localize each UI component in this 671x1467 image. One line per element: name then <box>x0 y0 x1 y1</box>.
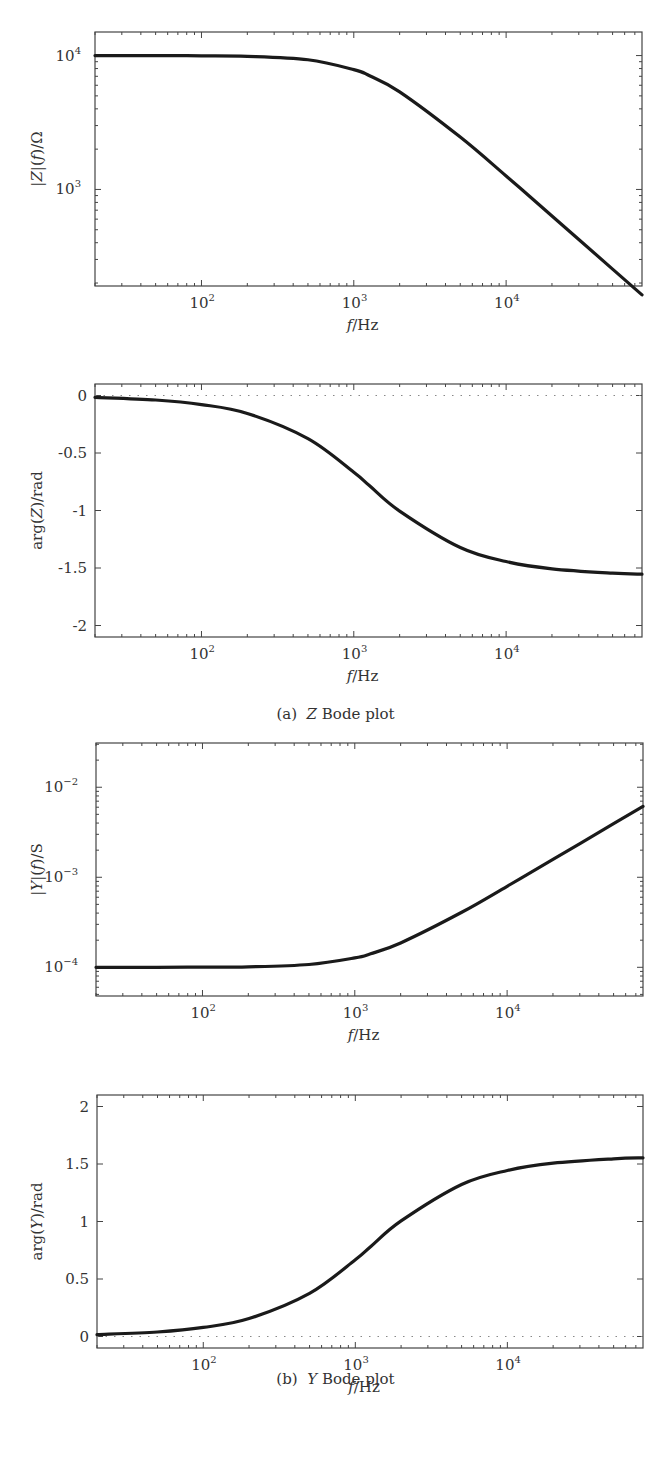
caption-symbol: Z <box>307 705 317 723</box>
y-axis-label: arg(Z)/rad <box>28 471 46 550</box>
x-tick-label: 102 <box>189 292 214 312</box>
y-tick-label: 1.5 <box>65 1155 89 1173</box>
series-line-y-phase <box>97 1158 643 1335</box>
x-tick-label: 104 <box>494 643 519 663</box>
plot-frame <box>95 32 642 286</box>
y-tick-label: -0.5 <box>58 444 87 462</box>
x-tick-label: 102 <box>189 643 214 663</box>
x-tick-label: 104 <box>495 1002 520 1022</box>
y-tick-label: 103 <box>56 178 81 198</box>
x-axis-label: f/Hz <box>346 316 379 334</box>
chart-y-magnitude: 10210310410−410−310−2f/Hz|Y|(f)/S <box>28 743 643 1044</box>
y-tick-label: 2 <box>79 1098 89 1116</box>
caption-z-bode: (a) Z Bode plot <box>0 705 671 723</box>
bode-figure: 102103104103104f/Hz|Z|(f)/Ω1021031040-0.… <box>0 0 671 1467</box>
x-ticks <box>96 743 636 996</box>
x-tick-label: 104 <box>494 292 519 312</box>
caption-prefix: (a) <box>276 705 297 723</box>
chart-y-phase: 10210310400.511.52f/Hzarg(Y)/rad <box>28 1095 643 1396</box>
y-axis-label: arg(Y)/rad <box>28 1182 46 1261</box>
y-tick-label: -1.5 <box>58 559 87 577</box>
series-line-z-magnitude <box>95 56 642 295</box>
y-tick-label: 10−3 <box>44 866 78 886</box>
y-tick-label: 0 <box>79 1328 89 1346</box>
y-tick-label: 10−2 <box>44 776 78 796</box>
x-tick-label: 103 <box>342 292 367 312</box>
y-tick-label: 104 <box>56 45 81 65</box>
series-line-y-magnitude <box>96 806 643 967</box>
plot-frame <box>95 384 642 637</box>
caption-y-bode: (b) Y Bode plot <box>0 1370 671 1388</box>
bode-plots: 102103104103104f/Hz|Z|(f)/Ω1021031040-0.… <box>0 0 671 1467</box>
y-tick-label: -1 <box>72 502 87 520</box>
y-axis-label: |Y|(f)/S <box>28 843 46 896</box>
x-tick-label: 103 <box>343 1002 368 1022</box>
y-ticks <box>96 744 643 994</box>
caption-text: Bode plot <box>322 705 395 723</box>
x-ticks <box>97 1095 636 1348</box>
y-tick-label: 0.5 <box>65 1270 89 1288</box>
caption-prefix: (b) <box>276 1370 297 1388</box>
y-tick-label: 1 <box>79 1213 89 1231</box>
caption-symbol: Y <box>307 1370 317 1388</box>
y-ticks <box>97 1107 643 1337</box>
y-ticks <box>95 56 642 283</box>
x-axis-label: f/Hz <box>346 667 379 685</box>
x-tick-label: 103 <box>342 643 367 663</box>
y-tick-label: 0 <box>77 387 87 405</box>
y-ticks <box>95 396 642 626</box>
y-tick-label: -2 <box>72 617 87 635</box>
y-tick-label: 10−4 <box>44 956 78 976</box>
x-axis-label: f/Hz <box>347 1026 380 1044</box>
x-ticks <box>95 32 635 286</box>
chart-z-magnitude: 102103104103104f/Hz|Z|(f)/Ω <box>28 32 642 334</box>
x-tick-label: 102 <box>190 1002 215 1022</box>
caption-text: Bode plot <box>322 1370 395 1388</box>
chart-z-phase: 1021031040-0.5-1-1.5-2f/Hzarg(Z)/rad <box>28 384 642 685</box>
plot-frame <box>96 743 643 996</box>
y-axis-label: |Z|(f)/Ω <box>28 131 46 186</box>
x-ticks <box>95 384 635 637</box>
plot-frame <box>97 1095 643 1348</box>
series-line-z-phase <box>95 397 642 574</box>
